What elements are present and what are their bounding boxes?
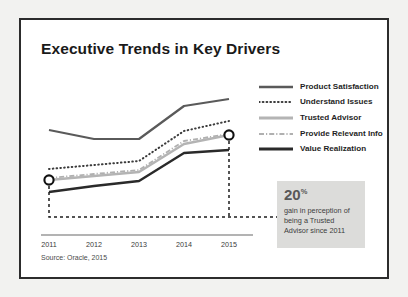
x-tick-2015: 2015 <box>214 240 244 249</box>
series-line-product-satisfaction <box>49 99 229 139</box>
slide-canvas: Executive Trends in Key Drivers 2011 <box>0 0 408 297</box>
x-tick-2013: 2013 <box>124 240 154 249</box>
callout-box: 20% gain in perception of being a Truste… <box>277 181 365 248</box>
legend-swatch-dashdot-icon <box>259 128 293 140</box>
chart-panel: Executive Trends in Key Drivers 2011 <box>19 18 389 279</box>
series-line-understand-issues <box>49 121 229 169</box>
legend-item-value-realization: Value Realization <box>259 141 389 157</box>
series-line-trusted-advisor <box>49 135 229 180</box>
legend-item-understand-issues: Understand Issues <box>259 95 389 111</box>
callout-number: 20 <box>284 186 301 203</box>
chart-legend: Product Satisfaction Understand Issues T… <box>259 79 389 157</box>
legend-swatch-solid-light-icon <box>259 112 293 124</box>
legend-item-trusted-advisor: Trusted Advisor <box>259 110 389 126</box>
source-note: Source: Oracle, 2015 <box>41 254 107 261</box>
legend-label-understand-issues: Understand Issues <box>300 98 372 106</box>
legend-swatch-solid-dark-icon <box>259 143 293 155</box>
legend-swatch-dotted-icon <box>259 96 293 108</box>
callout-percent-symbol: % <box>301 187 308 196</box>
callout-description: gain in perception of being a Trusted Ad… <box>284 206 358 236</box>
x-tick-2011: 2011 <box>34 240 64 249</box>
legend-label-provide-relevant-info: Provide Relevant Info <box>300 130 383 138</box>
x-tick-2014: 2014 <box>169 240 199 249</box>
x-tick-2012: 2012 <box>79 240 109 249</box>
marker-2015-trusted-advisor <box>224 130 233 139</box>
legend-item-product-satisfaction: Product Satisfaction <box>259 79 389 95</box>
callout-value: 20% <box>284 187 358 202</box>
legend-label-value-realization: Value Realization <box>300 145 366 153</box>
legend-swatch-solid-icon <box>259 81 293 93</box>
legend-label-trusted-advisor: Trusted Advisor <box>300 114 361 122</box>
legend-item-provide-relevant-info: Provide Relevant Info <box>259 126 389 142</box>
marker-2011-trusted-advisor <box>44 175 53 184</box>
legend-label-product-satisfaction: Product Satisfaction <box>300 83 379 91</box>
